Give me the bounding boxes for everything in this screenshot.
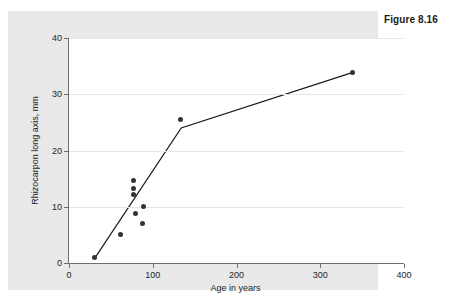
- y-axis-title: Rhizocarpon long axis, mm: [30, 38, 44, 263]
- plot-inner: [69, 38, 404, 263]
- gridline-y-30: [69, 94, 404, 95]
- data-point: [178, 117, 183, 122]
- y-tick-mark-30: [64, 94, 68, 95]
- plot-area: 0102030400100200300400: [68, 38, 404, 264]
- data-point: [131, 186, 136, 191]
- gridline-y-40: [69, 38, 404, 39]
- x-tick-mark-0: [69, 264, 70, 268]
- y-tick-label-40: 40: [52, 33, 62, 43]
- x-axis-title: Age in years: [68, 283, 403, 293]
- gridline-y-10: [69, 207, 404, 208]
- x-tick-label-200: 200: [229, 270, 244, 280]
- data-point: [133, 211, 138, 216]
- x-tick-label-300: 300: [313, 270, 328, 280]
- x-tick-mark-400: [404, 264, 405, 268]
- y-tick-mark-20: [64, 151, 68, 152]
- y-tick-label-30: 30: [52, 89, 62, 99]
- x-tick-mark-200: [237, 264, 238, 268]
- y-tick-mark-0: [64, 263, 68, 264]
- y-tick-mark-10: [64, 207, 68, 208]
- y-tick-mark-40: [64, 38, 68, 39]
- y-tick-label-10: 10: [52, 202, 62, 212]
- fitted-curve-path: [95, 72, 353, 258]
- figure-caption: Figure 8.16: [384, 14, 456, 25]
- x-tick-mark-100: [153, 264, 154, 268]
- x-tick-label-0: 0: [66, 270, 71, 280]
- y-tick-label-0: 0: [57, 258, 62, 268]
- data-point: [140, 221, 145, 226]
- x-tick-mark-300: [320, 264, 321, 268]
- x-tick-label-400: 400: [396, 270, 411, 280]
- y-tick-label-20: 20: [52, 146, 62, 156]
- x-tick-label-100: 100: [145, 270, 160, 280]
- chart-card: 0102030400100200300400 Age in years Rhiz…: [8, 11, 378, 290]
- gridline-y-20: [69, 151, 404, 152]
